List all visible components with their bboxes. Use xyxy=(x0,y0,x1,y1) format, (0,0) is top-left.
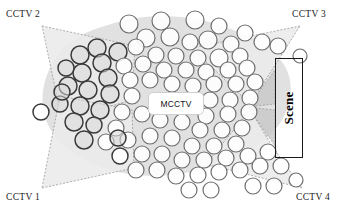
sensor-node xyxy=(65,113,83,131)
sensor-node xyxy=(192,122,208,138)
sensor-node-ring-4 xyxy=(237,25,253,41)
sensor-node-ring-83 xyxy=(232,162,248,178)
sensor-node-ring-51 xyxy=(220,106,236,122)
camera-label-cctv4: CCTV 4 xyxy=(296,192,330,202)
sensor-node xyxy=(58,60,74,76)
sensor-node xyxy=(161,28,179,46)
sensor-node-ring-69 xyxy=(228,136,244,152)
sensor-node-ring-1 xyxy=(152,12,170,30)
sensor-node xyxy=(266,178,282,194)
sensor-node-ring-78 xyxy=(128,162,144,178)
sensor-node-ring-28 xyxy=(73,64,91,82)
sensor-node xyxy=(214,122,230,138)
sensor-node xyxy=(156,62,172,78)
sensor-node xyxy=(134,146,150,162)
sensor-node xyxy=(220,62,236,78)
sensor-node xyxy=(71,46,89,64)
sensor-node-ring-36 xyxy=(228,76,244,92)
sensor-node xyxy=(273,158,289,174)
camera-label-cctv3: CCTV 3 xyxy=(292,9,326,19)
sensor-node xyxy=(54,84,70,100)
sensor-node-ring-3 xyxy=(211,18,227,34)
sensor-node-ring-22 xyxy=(135,56,151,72)
sensor-node xyxy=(101,85,119,103)
sensor-node-ring-73 xyxy=(174,152,190,168)
sensor-node xyxy=(196,152,212,168)
mcctv-coverage-diagram: CCTV 2 CCTV 3 CCTV 1 CCTV 4 MCCTV Scene xyxy=(0,0,347,214)
sensor-node-ring-88 xyxy=(245,178,261,194)
sensor-node xyxy=(190,50,206,66)
sensor-node-ring-37 xyxy=(247,74,263,90)
sensor-node xyxy=(75,131,93,149)
sensor-node xyxy=(122,72,138,88)
sensor-node-ring-72 xyxy=(154,146,170,162)
sensor-node xyxy=(149,162,165,178)
sensor-node xyxy=(245,178,261,194)
sensor-node xyxy=(190,167,206,183)
sensor-node-ring-33 xyxy=(164,76,180,92)
sensor-node xyxy=(99,69,117,87)
sensor-node xyxy=(154,146,170,162)
sensor-node-ring-71 xyxy=(134,146,150,162)
sensor-node xyxy=(228,136,244,152)
sensor-node-ring-68 xyxy=(206,138,222,154)
sensor-node xyxy=(73,64,91,82)
sensor-node-ring-93 xyxy=(110,130,126,146)
sensor-node xyxy=(168,48,184,64)
mcctv-label: MCCTV xyxy=(160,99,191,109)
sensor-node-ring-84 xyxy=(252,158,268,174)
sensor-node xyxy=(206,76,222,92)
sensor-node-ring-86 xyxy=(181,182,197,198)
sensor-node xyxy=(174,152,190,168)
sensor-node xyxy=(186,11,204,29)
sensor-node xyxy=(270,38,286,54)
sensor-node-ring-65 xyxy=(142,128,158,144)
sensor-node xyxy=(202,92,218,108)
sensor-node xyxy=(135,56,151,72)
sensor-node xyxy=(178,62,194,78)
sensor-node-ring-0 xyxy=(120,15,138,33)
sensor-node xyxy=(203,182,219,198)
sensor-node-ring-54 xyxy=(65,113,83,131)
sensor-node xyxy=(181,182,197,198)
sensor-node-ring-7 xyxy=(182,34,198,50)
sensor-node-ring-31 xyxy=(122,72,138,88)
sensor-node xyxy=(86,117,102,133)
sensor-node-ring-94 xyxy=(54,84,70,100)
sensor-node-ring-79 xyxy=(149,162,165,178)
sensor-node xyxy=(239,60,255,76)
sensor-node xyxy=(110,130,126,146)
sensor-node-ring-30 xyxy=(99,69,117,87)
sensor-node-ring-77 xyxy=(260,144,276,160)
sensor-node-ring-23 xyxy=(156,62,172,78)
sensor-node-ring-43 xyxy=(222,92,238,108)
sensor-node xyxy=(237,25,253,41)
sensor-node xyxy=(211,18,227,34)
sensor-node xyxy=(247,74,263,90)
sensor-node-ring-87 xyxy=(203,182,219,198)
sensor-node-ring-82 xyxy=(211,164,227,180)
sensor-node xyxy=(222,92,238,108)
sensor-node-ring-53 xyxy=(33,104,49,120)
sensor-node xyxy=(124,88,140,104)
sensor-node-ring-67 xyxy=(184,138,200,154)
sensor-node-ring-62 xyxy=(75,131,93,149)
sensor-node-ring-15 xyxy=(168,48,184,64)
camera-label-cctv1: CCTV 1 xyxy=(6,192,40,202)
sensor-node xyxy=(234,120,250,136)
sensor-node xyxy=(241,104,257,120)
sensor-node-ring-74 xyxy=(196,152,212,168)
sensor-node-ring-70 xyxy=(112,148,128,164)
sensor-node xyxy=(120,15,138,33)
sensor-node xyxy=(164,76,180,92)
sensor-node xyxy=(206,138,222,154)
sensor-node-ring-80 xyxy=(168,168,184,184)
sensor-node xyxy=(142,72,158,88)
sensor-node xyxy=(252,158,268,174)
sensor-node xyxy=(184,138,200,154)
sensor-node xyxy=(142,128,158,144)
sensor-node xyxy=(228,76,244,92)
sensor-node-ring-66 xyxy=(164,130,180,146)
sensor-node xyxy=(182,34,198,50)
camera-label-cctv2: CCTV 2 xyxy=(6,9,40,19)
